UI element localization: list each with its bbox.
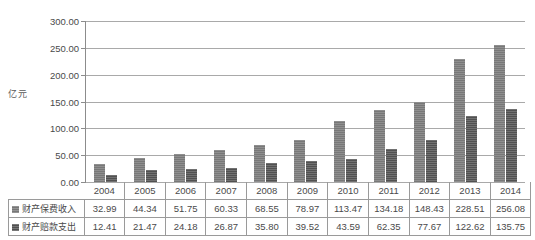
bar-group: [165, 21, 205, 182]
y-axis-tick-label: 50.00: [55, 150, 79, 161]
y-axis-tick-label: 250.00: [50, 42, 79, 53]
y-axis-tick-label: 300.00: [50, 16, 79, 27]
table-value-cell: 43.59: [328, 218, 369, 236]
table-header-cell-year: 2004: [85, 182, 125, 200]
y-axis-title: 亿元: [8, 87, 27, 100]
data-table: 2004200520062007200820092010201120122013…: [8, 182, 531, 236]
table-header-cell-year: 2006: [165, 182, 206, 200]
table-row-label: 财产保费收入: [9, 200, 85, 218]
table-value-cell: 32.99: [85, 200, 125, 218]
table-value-cell: 256.08: [490, 200, 531, 218]
bar: [494, 45, 505, 182]
bar-group: [205, 21, 245, 182]
bar: [254, 145, 265, 182]
table-value-cell: 68.55: [247, 200, 288, 218]
table-value-cell: 39.52: [287, 218, 328, 236]
bar: [106, 175, 117, 182]
bar: [294, 140, 305, 182]
bar-group: [325, 21, 365, 182]
table-header-cell-year: 2010: [328, 182, 369, 200]
table-header-cell-year: 2005: [125, 182, 166, 200]
bar: [454, 59, 465, 182]
table-value-cell: 35.80: [247, 218, 288, 236]
bar-group: [125, 21, 165, 182]
table-value-cell: 148.43: [409, 200, 450, 218]
y-axis-tick-label: 150.00: [50, 96, 79, 107]
bar: [134, 158, 145, 182]
bar-group: [445, 21, 485, 182]
bar-group: [85, 21, 125, 182]
bar-group: [405, 21, 445, 182]
table-row: 财产保费收入32.9944.3451.7560.3368.5578.97113.…: [9, 200, 531, 218]
table-value-cell: 228.51: [450, 200, 491, 218]
bar: [386, 149, 397, 182]
table-value-cell: 134.18: [368, 200, 409, 218]
table-value-cell: 21.47: [125, 218, 166, 236]
bar-group: [365, 21, 405, 182]
bar-group: [245, 21, 285, 182]
table-header-cell-year: 2011: [368, 182, 409, 200]
y-axis-tick-label: 200.00: [50, 69, 79, 80]
y-axis-tick-label: 100.00: [50, 123, 79, 134]
bar-group: [485, 21, 525, 182]
bar: [214, 150, 225, 182]
table-header-row: 2004200520062007200820092010201120122013…: [9, 182, 531, 200]
bar: [186, 169, 197, 182]
table-corner-cell: [9, 182, 85, 200]
bar: [146, 170, 157, 182]
legend-label: 财产保费收入: [22, 204, 76, 214]
table-value-cell: 12.41: [85, 218, 125, 236]
bar: [506, 109, 517, 182]
table-row: 财产赔款支出12.4121.4724.1826.8735.8039.5243.5…: [9, 218, 531, 236]
legend-swatch-icon: [12, 206, 19, 213]
table-value-cell: 60.33: [206, 200, 247, 218]
plot-inner: 0.0050.00100.00150.00200.00250.00300.00: [85, 21, 525, 182]
table-value-cell: 62.35: [368, 218, 409, 236]
bar: [374, 110, 385, 182]
bar: [226, 168, 237, 182]
table-value-cell: 135.75: [490, 218, 531, 236]
table-header-cell-year: 2008: [247, 182, 288, 200]
table-row-label: 财产赔款支出: [9, 218, 85, 236]
bar: [94, 164, 105, 182]
plot-area: 0.0050.00100.00150.00200.00250.00300.00: [85, 21, 525, 182]
table-value-cell: 51.75: [165, 200, 206, 218]
bar: [414, 102, 425, 182]
bar: [334, 121, 345, 182]
bar: [466, 116, 477, 182]
table-value-cell: 77.67: [409, 218, 450, 236]
table-header-cell-year: 2009: [287, 182, 328, 200]
table-header-cell-year: 2013: [450, 182, 491, 200]
table-value-cell: 44.34: [125, 200, 166, 218]
table-value-cell: 24.18: [165, 218, 206, 236]
legend-label: 财产赔款支出: [22, 222, 76, 232]
table-header-cell-year: 2012: [409, 182, 450, 200]
bar: [306, 161, 317, 182]
table-value-cell: 26.87: [206, 218, 247, 236]
table-header-cell-year: 2014: [490, 182, 531, 200]
bars-layer: [85, 21, 525, 182]
bar-group: [285, 21, 325, 182]
table-header-cell-year: 2007: [206, 182, 247, 200]
bar: [346, 159, 357, 182]
bar: [266, 163, 277, 182]
table-value-cell: 122.62: [450, 218, 491, 236]
legend-swatch-icon: [12, 224, 19, 231]
bar: [174, 154, 185, 182]
table-value-cell: 113.47: [328, 200, 369, 218]
table-value-cell: 78.97: [287, 200, 328, 218]
bar-chart-with-data-table: 亿元 0.0050.00100.00150.00200.00250.00300.…: [0, 0, 535, 240]
bar: [426, 140, 437, 182]
